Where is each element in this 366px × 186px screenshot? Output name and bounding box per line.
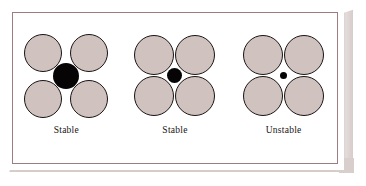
central-ion-core bbox=[167, 68, 182, 83]
sphere-bottom-right bbox=[284, 76, 324, 116]
cluster-row: Stable Stable bbox=[12, 12, 338, 164]
central-ion-core bbox=[280, 72, 287, 79]
sphere-bottom-left bbox=[134, 76, 174, 116]
cluster-group-1: Stable bbox=[18, 34, 114, 136]
sphere-bottom-right bbox=[70, 80, 108, 118]
cluster-group-2: Stable bbox=[127, 34, 223, 136]
cluster-label-3: Unstable bbox=[266, 126, 302, 136]
sphere-cluster-3 bbox=[240, 34, 328, 118]
sphere-top-right bbox=[175, 35, 215, 75]
sphere-top-left bbox=[243, 35, 283, 75]
sphere-bottom-right bbox=[175, 76, 215, 116]
sphere-top-left bbox=[134, 35, 174, 75]
figure-root: Stable Stable bbox=[0, 0, 366, 186]
sphere-top-right bbox=[70, 34, 108, 72]
sphere-cluster-2 bbox=[131, 34, 219, 118]
sphere-top-right bbox=[284, 35, 324, 75]
cluster-label-1: Stable bbox=[54, 126, 79, 136]
figure-card: Stable Stable bbox=[6, 4, 344, 170]
sphere-bottom-left bbox=[243, 76, 283, 116]
sphere-cluster-1 bbox=[22, 34, 110, 118]
cluster-label-2: Stable bbox=[162, 126, 187, 136]
cluster-group-3: Unstable bbox=[236, 34, 332, 136]
